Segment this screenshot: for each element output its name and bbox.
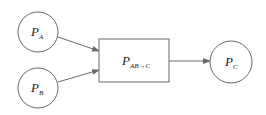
node-pb: PB xyxy=(18,68,58,108)
node-pab-to-c-main: P xyxy=(121,53,130,68)
node-pab-to-c: PAB→C xyxy=(99,39,169,82)
diagram-canvas: PA PB PAB→C PC xyxy=(0,0,266,115)
edge-pb-to-pabc xyxy=(58,70,99,82)
node-pa: PA xyxy=(18,12,58,52)
node-pab-to-c-sub: AB→C xyxy=(129,62,151,70)
node-pb-sub: B xyxy=(39,89,44,97)
node-pc: PC xyxy=(210,41,252,83)
node-pc-main: P xyxy=(224,54,233,69)
edge-pa-to-pabc xyxy=(58,37,99,51)
node-pb-main: P xyxy=(30,80,39,95)
node-pa-sub: A xyxy=(38,33,44,41)
node-pc-sub: C xyxy=(233,63,238,71)
node-pa-main: P xyxy=(30,24,39,39)
